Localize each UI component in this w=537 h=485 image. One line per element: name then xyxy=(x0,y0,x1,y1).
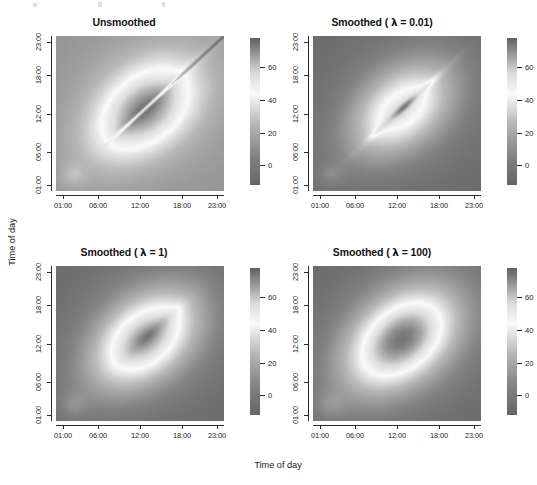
x-tick-1-0 xyxy=(320,195,321,199)
colorbar-label-3-2: 40 xyxy=(525,326,533,335)
y-tick-0-2 xyxy=(47,114,51,115)
colorbar-1 xyxy=(507,38,517,185)
y-tick-label-1-3: 18:00 xyxy=(291,66,300,84)
x-tick-1-3 xyxy=(439,195,440,199)
heatmap-smoothed-001 xyxy=(313,36,481,191)
colorbar-label-0-3: 60 xyxy=(268,63,276,72)
figure-canvas: Unsmoothed Smoothed ( λ = 0.01) Smoothed… xyxy=(0,0,537,485)
y-tick-label-2-1: 06:00 xyxy=(34,373,43,391)
x-tick-1-4 xyxy=(474,195,475,199)
y-tick-2-2 xyxy=(47,344,51,345)
x-tick-label-0-1: 06:00 xyxy=(89,201,107,210)
x-tick-0-2 xyxy=(140,195,141,199)
colorbar-label-1-2: 40 xyxy=(525,96,533,105)
y-axis-line-2 xyxy=(51,266,52,421)
colorbar-tick-2-1 xyxy=(260,363,265,364)
x-tick-label-2-3: 18:00 xyxy=(173,431,191,440)
panel-title-prefix: Smoothed ( xyxy=(333,246,393,258)
y-tick-3-2 xyxy=(304,344,308,345)
colorbar-tick-2-2 xyxy=(260,330,265,331)
y-tick-label-3-2: 12:00 xyxy=(291,335,300,353)
x-tick-label-0-0: 01:00 xyxy=(54,201,72,210)
panel-title-suffix: = 1) xyxy=(147,246,168,258)
colorbar-tick-3-0 xyxy=(517,395,522,396)
y-tick-label-0-0: 01:00 xyxy=(34,176,43,194)
colorbar-2 xyxy=(250,268,260,415)
colorbar-tick-1-3 xyxy=(517,67,522,68)
panel-smoothed-1: Smoothed ( λ = 1) xyxy=(18,244,276,454)
x-tick-2-2 xyxy=(140,425,141,429)
x-axis-title: Time of day xyxy=(254,460,302,470)
y-tick-1-1 xyxy=(304,152,308,153)
colorbar-tick-0-0 xyxy=(260,165,265,166)
x-tick-label-0-4: 23:00 xyxy=(208,201,226,210)
y-tick-1-4 xyxy=(304,42,308,43)
x-tick-label-3-2: 12:00 xyxy=(388,431,406,440)
y-tick-3-1 xyxy=(304,382,308,383)
y-tick-label-3-4: 23:00 xyxy=(291,263,300,281)
y-tick-label-2-3: 18:00 xyxy=(34,296,43,314)
panel-title-prefix: Smoothed ( xyxy=(331,16,391,28)
x-tick-0-1 xyxy=(98,195,99,199)
panel-title-unsmoothed: Unsmoothed xyxy=(18,16,230,28)
x-tick-3-1 xyxy=(355,425,356,429)
y-tick-2-0 xyxy=(47,415,51,416)
colorbar-label-0-0: 0 xyxy=(268,161,272,170)
x-tick-2-0 xyxy=(63,425,64,429)
y-tick-3-4 xyxy=(304,272,308,273)
x-tick-label-2-4: 23:00 xyxy=(208,431,226,440)
colorbar-tick-2-3 xyxy=(260,297,265,298)
scan-artifact xyxy=(162,2,165,7)
x-tick-3-0 xyxy=(320,425,321,429)
panel-title-suffix: = 0.01) xyxy=(398,16,433,28)
y-tick-label-0-3: 18:00 xyxy=(34,66,43,84)
x-tick-label-3-3: 18:00 xyxy=(430,431,448,440)
y-tick-3-3 xyxy=(304,305,308,306)
colorbar-label-0-1: 20 xyxy=(268,128,276,137)
y-axis-line-0 xyxy=(51,36,52,191)
colorbar-label-2-3: 60 xyxy=(268,293,276,302)
colorbar-label-3-3: 60 xyxy=(525,293,533,302)
y-tick-2-3 xyxy=(47,305,51,306)
colorbar-tick-1-0 xyxy=(517,165,522,166)
x-tick-label-2-1: 06:00 xyxy=(89,431,107,440)
panel-title-smoothed-001: Smoothed ( λ = 0.01) xyxy=(275,16,489,28)
y-axis-title: Time of day xyxy=(7,218,17,266)
heatmap-smoothed-1 xyxy=(56,266,224,421)
panel-title-prefix: Smoothed ( xyxy=(81,246,141,258)
x-tick-label-1-0: 01:00 xyxy=(311,201,329,210)
colorbar-label-1-0: 0 xyxy=(525,161,529,170)
y-tick-3-0 xyxy=(304,415,308,416)
x-tick-0-4 xyxy=(217,195,218,199)
y-axis-line-3 xyxy=(308,266,309,421)
y-axis-line-1 xyxy=(308,36,309,191)
colorbar-tick-2-0 xyxy=(260,395,265,396)
colorbar-label-2-2: 40 xyxy=(268,326,276,335)
x-tick-label-3-4: 23:00 xyxy=(465,431,483,440)
x-tick-label-1-4: 23:00 xyxy=(465,201,483,210)
y-tick-label-3-0: 01:00 xyxy=(291,406,300,424)
y-tick-2-4 xyxy=(47,272,51,273)
y-tick-label-0-2: 12:00 xyxy=(34,105,43,123)
scan-artifact xyxy=(98,2,102,7)
colorbar-label-1-3: 60 xyxy=(525,63,533,72)
x-tick-label-1-3: 18:00 xyxy=(430,201,448,210)
y-tick-0-4 xyxy=(47,42,51,43)
heatmap-smoothed-100 xyxy=(313,266,481,421)
y-tick-0-1 xyxy=(47,152,51,153)
x-tick-3-2 xyxy=(397,425,398,429)
y-tick-0-3 xyxy=(47,75,51,76)
panel-smoothed-100: Smoothed ( λ = 100) xyxy=(275,244,535,454)
y-tick-label-1-1: 06:00 xyxy=(291,143,300,161)
x-tick-3-4 xyxy=(474,425,475,429)
x-tick-label-1-1: 06:00 xyxy=(346,201,364,210)
x-tick-2-4 xyxy=(217,425,218,429)
heatmap-unsmoothed xyxy=(56,36,224,191)
y-tick-label-2-4: 23:00 xyxy=(34,263,43,281)
y-tick-1-2 xyxy=(304,114,308,115)
y-tick-label-2-0: 01:00 xyxy=(34,406,43,424)
y-tick-label-1-2: 12:00 xyxy=(291,105,300,123)
x-tick-1-2 xyxy=(397,195,398,199)
colorbar-tick-1-2 xyxy=(517,100,522,101)
scan-artifact xyxy=(33,3,37,7)
